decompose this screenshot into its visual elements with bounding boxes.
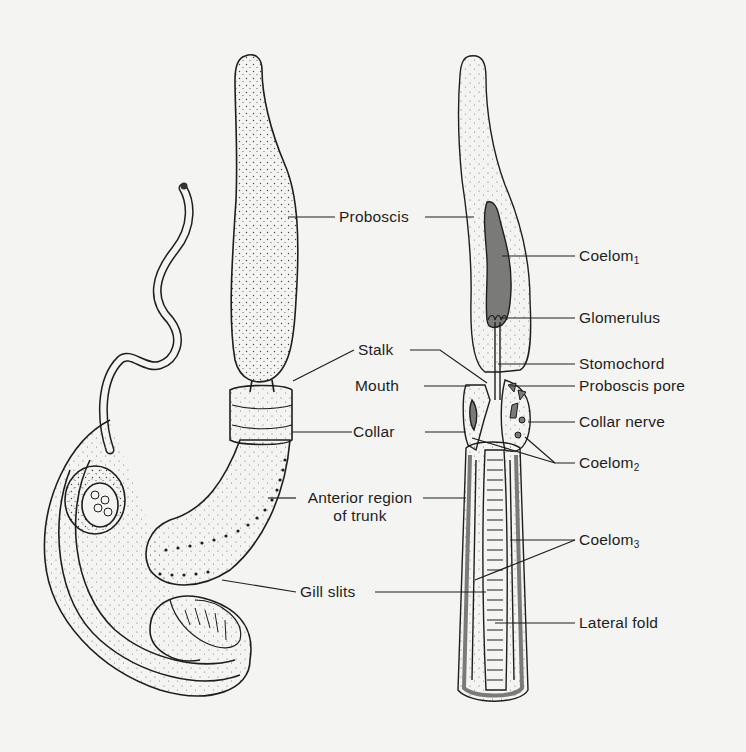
label-collar-nerve: Collar nerve xyxy=(579,413,665,431)
section-view-drawing xyxy=(458,56,531,702)
label-stalk: Stalk xyxy=(358,341,393,359)
diagram-artwork xyxy=(0,0,746,752)
label-anterior-region-of-trunk: Anterior region of trunk xyxy=(298,489,422,525)
collar-shape xyxy=(230,386,292,445)
label-proboscis-pore: Proboscis pore xyxy=(579,377,685,395)
label-coelom3-text: Coelom xyxy=(579,531,634,548)
label-stomochord: Stomochord xyxy=(579,355,665,373)
external-view-drawing xyxy=(44,55,297,696)
label-proboscis: Proboscis xyxy=(339,208,409,226)
acorn-worm-diagram: Proboscis Stalk Mouth Collar Anterior re… xyxy=(0,0,746,752)
proboscis-shape xyxy=(231,55,298,382)
label-mouth: Mouth xyxy=(355,377,399,395)
label-coelom1-text: Coelom xyxy=(579,247,634,264)
label-anterior-line2: of trunk xyxy=(298,507,422,525)
label-coelom2: Coelom2 xyxy=(579,454,639,477)
anterior-trunk-shape xyxy=(146,440,290,585)
label-coelom3: Coelom3 xyxy=(579,531,639,554)
label-anterior-line1: Anterior region xyxy=(298,489,422,507)
tail-icon xyxy=(103,183,189,451)
label-glomerulus: Glomerulus xyxy=(579,309,660,327)
label-collar: Collar xyxy=(353,423,395,441)
label-coelom3-subscript: 3 xyxy=(634,539,640,550)
label-coelom1: Coelom1 xyxy=(579,247,639,270)
label-gill-slits: Gill slits xyxy=(300,583,355,601)
label-coelom2-text: Coelom xyxy=(579,454,634,471)
label-coelom2-subscript: 2 xyxy=(634,462,640,473)
label-coelom1-subscript: 1 xyxy=(634,255,640,266)
label-lateral-fold: Lateral fold xyxy=(579,614,658,632)
